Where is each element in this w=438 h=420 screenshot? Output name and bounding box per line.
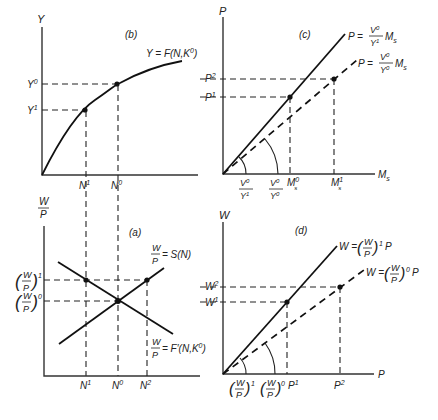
tick-p2-c: P2 <box>205 72 216 84</box>
tick-v0-y0: V0 Y0 <box>269 178 283 201</box>
panel-b-y-axis-label: Y <box>37 13 45 25</box>
svg-text:W: W <box>152 337 162 347</box>
svg-text:Y0: Y0 <box>380 65 390 75</box>
svg-text:(: ( <box>15 292 23 312</box>
tick-w2: W2 <box>205 280 218 292</box>
svg-text:P =: P = <box>358 58 373 69</box>
svg-text:V0: V0 <box>370 25 380 35</box>
svg-text:Ms: Ms <box>395 58 407 71</box>
tick-wp0: ( W P ) 0 <box>15 291 42 314</box>
tick-p2-d: P2 <box>334 379 345 391</box>
point-p2-w2 <box>337 284 342 289</box>
svg-text:): ) <box>30 292 38 312</box>
svg-text:V0: V0 <box>240 178 250 188</box>
svg-text:(: ( <box>15 271 23 291</box>
angle-arc-small-d <box>240 358 246 374</box>
tick-ms0: M0s <box>287 176 299 191</box>
panel-b-production-function: Y (b) Y = F(N,K0) Y0 Y1 N1 N0 <box>27 13 198 191</box>
tick-y0: Y0 <box>27 78 38 90</box>
point-p1-w1 <box>284 299 289 304</box>
svg-text:(: ( <box>384 265 391 282</box>
svg-text:W: W <box>152 243 162 253</box>
tick-p1-c: P1 <box>205 91 216 103</box>
svg-text:V0: V0 <box>380 52 390 62</box>
tick-n0-a: N0 <box>112 379 123 391</box>
svg-text:(: ( <box>260 380 267 397</box>
svg-text:Y1: Y1 <box>240 191 249 201</box>
svg-text:P: P <box>364 249 370 259</box>
panel-a-labor-market: W P (a) W P = S(N) W P = F′(N,K0) ( W <box>15 196 206 391</box>
svg-text:P =: P = <box>348 31 363 42</box>
point-n1-wp1 <box>83 277 88 282</box>
dashed-price-line-label: P = V0 Y0 Ms <box>358 52 407 75</box>
tick-v0-y1: V0 Y1 <box>239 178 253 201</box>
dashed-wage-line <box>223 270 364 374</box>
svg-text:W: W <box>39 196 50 207</box>
tick-n0-b: N0 <box>111 179 122 191</box>
svg-text:1: 1 <box>38 272 42 279</box>
svg-text:): ) <box>30 271 38 291</box>
point-equilibrium <box>115 298 121 304</box>
tick-n2-a: N2 <box>140 379 151 391</box>
svg-text:P: P <box>412 267 419 278</box>
labor-demand-label: W P = F′(N,K0) <box>151 337 206 360</box>
panel-c-x-axis-label: Ms <box>378 169 390 182</box>
panel-c-quantity-theory: P Ms (c) P = V0 Y1 Ms P = V0 Y0 Ms P2 <box>200 5 407 201</box>
solid-wage-line-label: W = ( W P ) 1 P <box>339 237 392 259</box>
svg-text:P: P <box>152 256 158 266</box>
angle-arc-large <box>265 139 278 174</box>
svg-text:= S(N): = S(N) <box>162 249 191 260</box>
svg-text:W =: W = <box>366 267 384 278</box>
svg-text:P: P <box>236 390 242 400</box>
angle-arc-large-d <box>265 343 275 374</box>
point-ms0-p1 <box>287 94 292 99</box>
production-curve-label: Y = F(N,K0) <box>146 47 197 59</box>
panel-d-title: (d) <box>295 225 307 236</box>
production-curve <box>42 61 182 175</box>
panel-a-title: (a) <box>129 227 141 238</box>
svg-text:(: ( <box>229 380 236 397</box>
tick-y1: Y1 <box>27 104 38 116</box>
panel-d-nominal-wage: W P (d) W = ( W P ) 1 P W = ( W P ) 0 P <box>200 209 419 400</box>
svg-text:= F′(N,K0): = F′(N,K0) <box>162 342 206 354</box>
panel-c-y-axis-label: P <box>219 5 227 17</box>
svg-text:Ms: Ms <box>385 31 397 44</box>
svg-text:0: 0 <box>281 380 285 387</box>
tick-n1-b: N1 <box>79 179 90 191</box>
svg-text:1: 1 <box>379 240 383 247</box>
tick-ms1: M1s <box>331 176 343 191</box>
panel-d-x-axis-label: P <box>378 369 385 380</box>
svg-text:P: P <box>385 241 392 252</box>
svg-text:Y1: Y1 <box>370 38 379 48</box>
panel-c-title: (c) <box>299 29 311 40</box>
tick-wp0-d: ( W P ) 0 <box>260 378 285 400</box>
point-n1-y1 <box>82 107 87 112</box>
labor-demand-curve <box>58 262 173 334</box>
svg-text:P: P <box>40 209 47 220</box>
svg-text:): ) <box>398 265 405 282</box>
svg-text:0: 0 <box>406 266 410 273</box>
point-n2-wp1 <box>144 277 149 282</box>
solid-wage-line <box>223 246 337 374</box>
svg-text:P: P <box>23 304 29 314</box>
svg-text:V0: V0 <box>270 178 280 188</box>
tick-w1: W1 <box>205 296 218 308</box>
four-panel-macro-diagram: Y (b) Y = F(N,K0) Y0 Y1 N1 N0 P Ms (c) P… <box>0 0 438 420</box>
panel-d-y-axis-label: W <box>219 209 231 221</box>
dashed-wage-line-label: W = ( W P ) 0 P <box>366 263 419 285</box>
solid-price-line-label: P = V0 Y1 Ms <box>348 25 397 48</box>
svg-text:P: P <box>152 350 158 360</box>
solid-price-line <box>223 34 345 174</box>
panel-b-title: (b) <box>125 29 137 40</box>
svg-text:P: P <box>391 275 397 285</box>
tick-n1-a: N1 <box>80 379 91 391</box>
svg-text:W =: W = <box>339 241 357 252</box>
point-ms1-p2 <box>331 76 336 81</box>
svg-text:Y0: Y0 <box>270 191 280 201</box>
angle-arc-small <box>239 157 246 174</box>
tick-p1-d: P1 <box>288 379 299 391</box>
tick-wp1: ( W P ) 1 <box>15 270 42 293</box>
svg-text:): ) <box>243 380 250 397</box>
panel-a-y-axis-label: W P <box>38 196 50 220</box>
point-n0-y0 <box>114 81 119 86</box>
